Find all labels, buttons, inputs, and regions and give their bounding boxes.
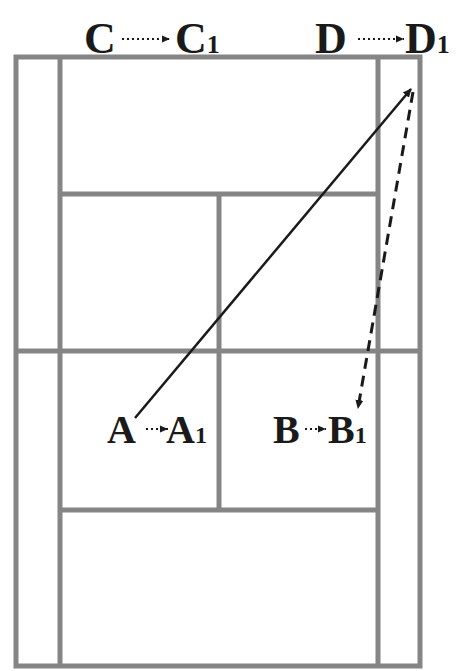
court-diagram: C C1 D D1 A A1 B B1 — [0, 0, 462, 671]
label-b1-letter: B — [328, 407, 355, 452]
label-d1: D1 — [405, 14, 450, 63]
return-path-dashed-arrow — [358, 92, 413, 408]
label-d: D — [315, 14, 347, 63]
label-b1-subscript: 1 — [355, 422, 367, 448]
label-a1: A1 — [166, 407, 207, 452]
label-a1-letter: A — [166, 407, 195, 452]
label-c1-subscript: 1 — [207, 30, 220, 59]
label-a: A — [107, 407, 136, 452]
labels: C C1 D D1 A A1 B B1 — [84, 14, 450, 452]
label-d1-letter: D — [405, 14, 437, 63]
label-c1: C1 — [175, 14, 220, 63]
label-b: B — [273, 407, 300, 452]
label-b1: B1 — [328, 407, 367, 452]
label-a1-subscript: 1 — [195, 422, 207, 448]
label-d1-subscript: 1 — [437, 30, 450, 59]
label-c: C — [84, 14, 116, 63]
shot-path-solid-arrow — [135, 89, 411, 418]
court — [16, 57, 420, 666]
label-c1-letter: C — [175, 14, 207, 63]
